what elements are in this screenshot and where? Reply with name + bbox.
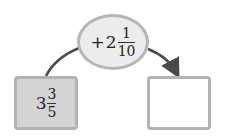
right-arrow-arc <box>148 49 176 72</box>
operation-ellipse: + 2 1 10 <box>77 14 149 70</box>
operation-expression: + 2 1 10 <box>91 26 136 58</box>
operation-whole: 2 <box>106 34 117 51</box>
operation-fraction: 1 10 <box>118 26 136 58</box>
start-mixed-number: 3 3 5 <box>36 87 57 119</box>
operation-numerator: 1 <box>122 26 131 41</box>
start-numerator: 3 <box>47 87 56 102</box>
start-value-box: 3 3 5 <box>14 76 78 130</box>
plus-sign: + <box>91 34 105 51</box>
operation-denominator: 10 <box>118 44 136 59</box>
start-fraction: 3 5 <box>47 87 56 119</box>
result-answer-box[interactable] <box>147 76 211 130</box>
start-whole: 3 <box>36 95 47 112</box>
start-denominator: 5 <box>47 105 56 120</box>
left-connector-arc <box>46 48 79 76</box>
